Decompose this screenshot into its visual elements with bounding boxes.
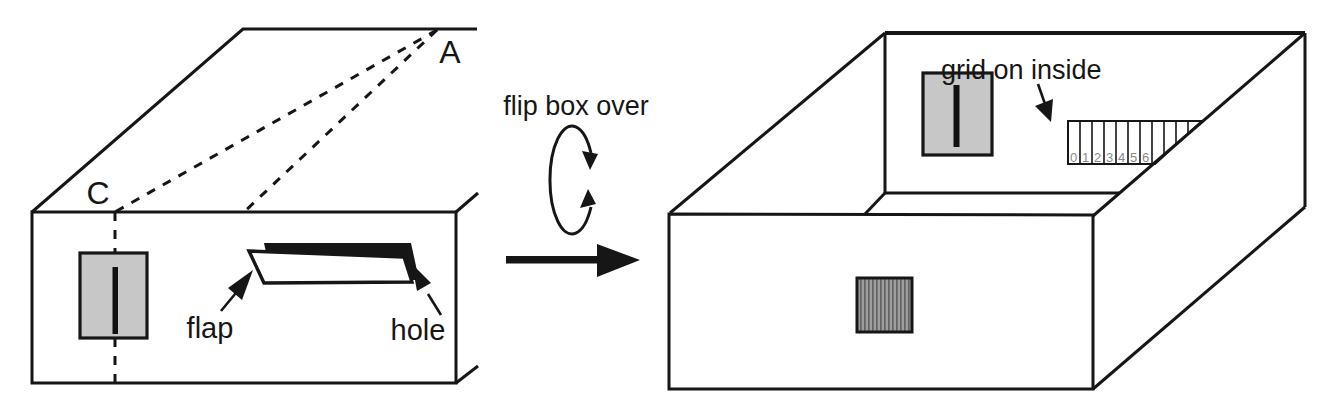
left-box-top-right-edge-tick: [456, 193, 478, 212]
transition: flip box over: [503, 91, 649, 277]
flip-caption: flip box over: [503, 91, 649, 121]
striped-square-front: [857, 278, 912, 332]
sight-line-a-to-c: [115, 30, 437, 212]
grid-number-5: 5: [1130, 150, 1137, 165]
right-box-left-wall-top-edge: [670, 33, 885, 213]
label-flap: flap: [187, 312, 234, 344]
grid-number-6: 6: [1142, 150, 1149, 165]
label-hole: hole: [391, 314, 446, 346]
flip-rotation-icon: [550, 126, 591, 234]
left-box: C A flap hole: [32, 29, 478, 383]
slit-front: [113, 267, 119, 334]
sight-line-a-right: [244, 30, 437, 212]
flap-arrow-head: [228, 270, 253, 300]
grid-number-3: 3: [1106, 150, 1113, 165]
grid-number-2: 2: [1094, 150, 1101, 165]
right-box-floor-left-corner: [865, 193, 885, 214]
slit-inside: [954, 85, 960, 147]
grid-number-1: 1: [1082, 150, 1089, 165]
transition-arrow-head: [597, 244, 640, 277]
flap-shape: [249, 251, 412, 283]
right-box: 0 1 2 3 4 5 6 grid on inside: [669, 33, 1305, 389]
label-c: C: [86, 175, 109, 211]
grid-label: grid on inside: [941, 55, 1102, 85]
grid-number-0: 0: [1070, 150, 1077, 165]
grid-number-4: 4: [1118, 150, 1125, 165]
flip-rotation-arrowhead-top: [582, 151, 598, 170]
label-a: A: [439, 34, 461, 70]
flip-rotation-arrowhead-bottom: [580, 189, 596, 208]
grid-numbers: 0 1 2 3 4 5 6: [1070, 150, 1149, 165]
hole-arrow-head: [412, 264, 431, 291]
diagram-canvas: C A flap hole flip box over: [0, 0, 1323, 416]
box-flip-diagram: C A flap hole flip box over: [0, 0, 1323, 416]
transition-arrow-shaft: [506, 256, 601, 264]
left-box-bottom-right-edge-tick: [456, 366, 478, 383]
grid-arrow-line: [1038, 84, 1045, 104]
hole-arrow-line: [428, 294, 441, 315]
right-box-right-bottom-edge: [1093, 207, 1305, 389]
